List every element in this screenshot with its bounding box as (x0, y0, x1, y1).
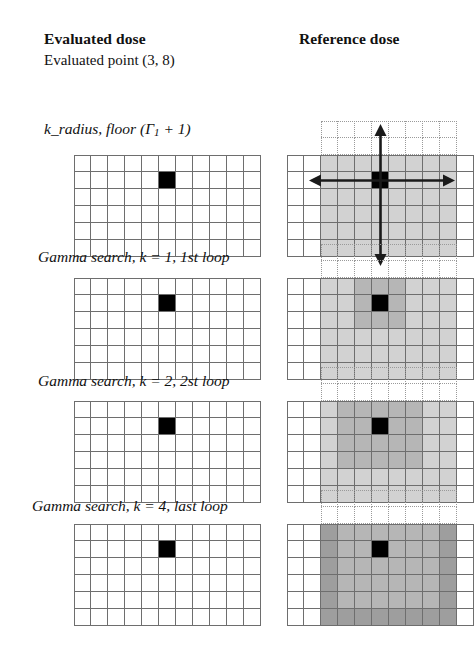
grid-cell (176, 541, 193, 558)
grid-cell (440, 401, 457, 418)
dotted-extension-cell (406, 121, 423, 138)
grid-cell (338, 541, 355, 558)
row-label-1: k_radius, floor (Γ1 + 1) (44, 120, 191, 138)
dotted-extension-cell (406, 244, 423, 261)
grid-cell (125, 452, 142, 469)
grid-cell (304, 223, 321, 240)
grid-cell (321, 346, 338, 363)
grid-cell (210, 155, 227, 172)
dotted-extension-cell (355, 490, 372, 507)
grid-cell (210, 278, 227, 295)
grid-cell (457, 592, 474, 609)
grid-cell (304, 401, 321, 418)
grid-cell (304, 295, 321, 312)
grid-cell (321, 452, 338, 469)
grid-cell (287, 401, 304, 418)
grid-cell (227, 189, 244, 206)
grid-cell (287, 469, 304, 486)
grid-cell (321, 609, 338, 626)
grid-cell (91, 575, 108, 592)
grid-cell (304, 575, 321, 592)
grid-cell (304, 206, 321, 223)
grid-cell (423, 592, 440, 609)
grid-cell (108, 452, 125, 469)
grid-cell (355, 469, 372, 486)
dotted-extension-cell (321, 244, 338, 261)
grid-cell (91, 541, 108, 558)
grid-cell (423, 346, 440, 363)
grid-cell (287, 363, 304, 380)
grid-cell (244, 558, 261, 575)
grid-cell (457, 295, 474, 312)
evaluated-point-cell (159, 418, 176, 435)
grid-cell (406, 469, 423, 486)
grid-cell (227, 172, 244, 189)
grid-cell (125, 223, 142, 240)
dotted-extension-cell (338, 367, 355, 384)
grid-cell (74, 206, 91, 223)
grid-cell (244, 486, 261, 503)
dotted-extension-cell (440, 138, 457, 155)
grid-cell (108, 469, 125, 486)
grid-cell (91, 346, 108, 363)
evaluated-point-cell (159, 172, 176, 189)
grid-cell (440, 206, 457, 223)
grid-cell (355, 452, 372, 469)
grid-cell (227, 155, 244, 172)
grid-cell (304, 312, 321, 329)
grid-cell (440, 435, 457, 452)
grid-cell (457, 312, 474, 329)
grid-cell (338, 575, 355, 592)
grid-cell (457, 189, 474, 206)
grid-cell (406, 541, 423, 558)
grid-cell (244, 278, 261, 295)
dotted-extension-cell (338, 507, 355, 524)
dotted-extension-cell (389, 261, 406, 278)
dotted-extension-cell (389, 367, 406, 384)
grid-cell (193, 609, 210, 626)
grid-cell (74, 541, 91, 558)
grid-cell (372, 435, 389, 452)
grid-cell (125, 312, 142, 329)
grid-cell (372, 524, 389, 541)
grid-cell (440, 609, 457, 626)
grid-cell (440, 295, 457, 312)
evaluated-dose-header: Evaluated dose (44, 30, 146, 48)
dotted-extension-cell (406, 367, 423, 384)
evaluated-point-cell (372, 172, 389, 189)
grid-cell (423, 312, 440, 329)
evaluated-dose-grid (74, 155, 261, 257)
grid-cell (74, 155, 91, 172)
grid-cell (193, 155, 210, 172)
grid-cell (389, 592, 406, 609)
grid-cell (287, 172, 304, 189)
grid-cell (159, 558, 176, 575)
grid-cell (338, 524, 355, 541)
evaluated-dose-grid (74, 524, 261, 626)
grid-cell (389, 452, 406, 469)
grid-cell (406, 346, 423, 363)
grid-cell (159, 609, 176, 626)
grid-cell (244, 172, 261, 189)
grid-cell (406, 295, 423, 312)
grid-cell (338, 609, 355, 626)
dotted-extension-cell (355, 367, 372, 384)
grid-cell (355, 418, 372, 435)
grid-cell (142, 401, 159, 418)
grid-cell (389, 469, 406, 486)
grid-cell (176, 401, 193, 418)
grid-cell (193, 575, 210, 592)
grid-cell (389, 155, 406, 172)
grid-cell (125, 609, 142, 626)
grid-cell (372, 575, 389, 592)
grid-cell (355, 223, 372, 240)
grid-cell (440, 278, 457, 295)
grid-cell (406, 155, 423, 172)
grid-cell (355, 172, 372, 189)
grid-cell (125, 295, 142, 312)
grid-cell (210, 206, 227, 223)
grid-cell (355, 155, 372, 172)
grid-cell (304, 609, 321, 626)
reference-dose-grid (287, 278, 474, 380)
